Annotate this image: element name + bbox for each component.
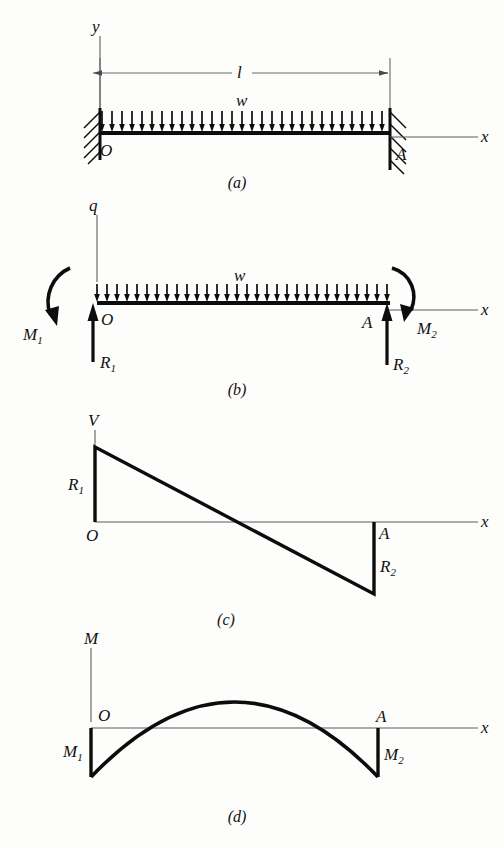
moment-right-b — [392, 268, 414, 322]
figure-page: y l — [0, 0, 504, 847]
node-label-o-a: O — [100, 141, 112, 160]
panel-label-d: (d) — [228, 808, 247, 826]
shear-curve-c — [95, 447, 374, 594]
support-left-a — [84, 108, 100, 164]
moment-right-label-b: M2 — [416, 319, 437, 340]
span-label-a: l — [237, 63, 242, 82]
axis-x-label-d: x — [480, 718, 489, 737]
panel-a: y l — [84, 17, 489, 192]
axis-x-label-c: x — [480, 512, 489, 531]
axis-y-label-a: y — [90, 17, 100, 36]
axis-v-label-c: V — [88, 411, 101, 430]
value-label-r1-c: R1 — [67, 475, 84, 496]
support-right-a — [390, 108, 406, 174]
axis-x-label-a: x — [480, 127, 489, 146]
panel-label-b: (b) — [228, 381, 247, 399]
axis-q-label-b: q — [89, 196, 98, 215]
node-label-a-a: A — [395, 145, 407, 164]
node-label-o-c: O — [86, 526, 98, 545]
panel-label-c: (c) — [217, 611, 235, 629]
node-label-a-c: A — [378, 524, 390, 543]
moment-left-b — [45, 268, 70, 326]
distributed-load-b — [94, 284, 390, 302]
distributed-load-a — [99, 111, 385, 132]
moment-parabola-d — [91, 702, 378, 777]
panel-c: V x O A R1 R2 (c) — [67, 411, 489, 629]
moment-left-label-b: M1 — [22, 325, 43, 346]
node-label-o-b: O — [101, 310, 113, 329]
value-label-m2-d: M2 — [383, 745, 404, 766]
panel-b: q — [22, 196, 489, 399]
axis-m-label-d: M — [83, 629, 99, 648]
load-label-b: w — [234, 266, 246, 285]
node-label-a-d: A — [375, 707, 387, 726]
reaction-left-b — [88, 303, 99, 362]
panel-label-a: (a) — [228, 174, 247, 192]
value-label-m1-d: M1 — [62, 742, 83, 763]
node-label-a-b: A — [361, 313, 373, 332]
reaction-right-b — [382, 303, 393, 365]
load-label-a: w — [236, 91, 248, 110]
reaction-right-label-b: R2 — [392, 355, 409, 376]
value-label-r2-c: R2 — [379, 557, 396, 578]
figure-canvas: y l — [0, 0, 504, 847]
moment-end-ordinates-d — [91, 728, 378, 777]
reaction-left-label-b: R1 — [99, 353, 116, 374]
panel-d: M x O A M1 M2 (d) — [62, 629, 489, 826]
axis-x-label-b: x — [480, 300, 489, 319]
node-label-o-d: O — [98, 706, 110, 725]
